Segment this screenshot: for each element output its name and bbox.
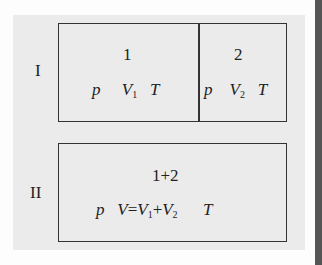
var-V: V [122, 80, 132, 99]
var-V: V [117, 200, 127, 219]
var-V2-sub: 2 [173, 209, 178, 220]
combined-title: 1+2 [152, 166, 179, 186]
compartment-2-title: 2 [234, 45, 243, 65]
var-T: T [203, 200, 212, 219]
var-V-sub: 2 [240, 89, 245, 100]
var-V2: V [162, 200, 172, 219]
row-label-II: II [30, 183, 41, 203]
var-p: p [96, 200, 105, 219]
page-edge-bar [315, 0, 322, 265]
var-V1: V [137, 200, 147, 219]
var-T: T [150, 80, 159, 99]
var-p: p [204, 80, 213, 99]
compartment-2-vars: p V2 T [204, 80, 267, 100]
compartment-1-title: 1 [123, 45, 132, 65]
state-II-container [58, 143, 287, 242]
var-V-sub: 1 [132, 89, 137, 100]
var-V: V [230, 80, 240, 99]
equals-sign: = [128, 200, 138, 219]
var-T: T [258, 80, 267, 99]
var-p: p [92, 80, 101, 99]
combined-vars: p V=V1+V2 T [96, 200, 213, 220]
state-I-container [58, 23, 287, 122]
row-label-I: I [35, 61, 41, 81]
compartment-1-vars: p V1 T [92, 80, 159, 100]
partition-wall [198, 23, 200, 122]
plus-sign: + [153, 200, 163, 219]
